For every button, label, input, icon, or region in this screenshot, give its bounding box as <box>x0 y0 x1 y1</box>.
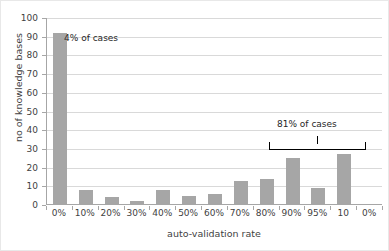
bar <box>182 196 196 204</box>
bar <box>337 154 351 204</box>
bracket-horizontal-line <box>269 149 366 150</box>
bar <box>130 201 144 204</box>
bar <box>79 190 93 204</box>
bar <box>260 179 274 204</box>
plot-area <box>46 18 382 205</box>
bar <box>53 33 67 204</box>
bracket-annotation <box>269 142 366 151</box>
y-tick-80: 80 <box>27 51 38 60</box>
y-tick-70: 70 <box>27 70 38 79</box>
bar <box>286 158 300 204</box>
y-tick-60: 60 <box>27 89 38 98</box>
y-tick-0: 0 <box>32 201 38 210</box>
annotation-4-percent: 4% of cases <box>64 33 118 43</box>
bar <box>105 197 119 204</box>
annotation-81-percent: 81% of cases <box>277 119 337 129</box>
x-axis-tick-labels: 0%10%20%30%40%50%60%70%80%90%95%100% <box>46 208 382 222</box>
bar-series <box>47 18 382 204</box>
x-axis-title: auto-validation rate <box>46 228 382 239</box>
y-tick-30: 30 <box>27 145 38 154</box>
y-tick-20: 20 <box>27 164 38 173</box>
y-tick-50: 50 <box>27 108 38 117</box>
bar <box>208 194 222 204</box>
bar-chart: 100 90 80 70 60 50 40 30 20 10 0 no of k… <box>0 0 389 251</box>
bar <box>156 190 170 204</box>
y-tick-90: 90 <box>27 33 38 42</box>
x-tick-label: 0% <box>354 208 384 218</box>
y-tick-10: 10 <box>27 182 38 191</box>
bar <box>234 181 248 204</box>
bar <box>311 188 325 204</box>
y-axis-title: no of knowledge bases <box>13 8 24 168</box>
bracket-mid-tick <box>317 136 318 144</box>
bracket-right-cap <box>365 142 366 150</box>
y-tick-40: 40 <box>27 126 38 135</box>
bracket-left-cap <box>269 142 270 150</box>
